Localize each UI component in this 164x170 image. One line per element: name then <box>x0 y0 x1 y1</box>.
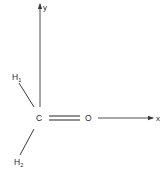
h1-subscript: 1 <box>18 77 21 83</box>
carbon-h1-bond <box>19 83 34 107</box>
h1-atom-label: H1 <box>12 72 21 83</box>
x-axis-label: x <box>156 114 160 123</box>
h2-subscript: 2 <box>20 162 23 168</box>
carbon-h2-bond <box>20 129 34 155</box>
molecule-diagram: y x C O H1 H2 <box>0 0 164 170</box>
h2-atom-label: H2 <box>14 157 23 168</box>
carbon-atom-label: C <box>36 113 42 123</box>
carbon-oxygen-double-bond <box>49 116 80 120</box>
y-axis-label: y <box>43 3 47 12</box>
oxygen-atom-label: O <box>85 113 92 123</box>
